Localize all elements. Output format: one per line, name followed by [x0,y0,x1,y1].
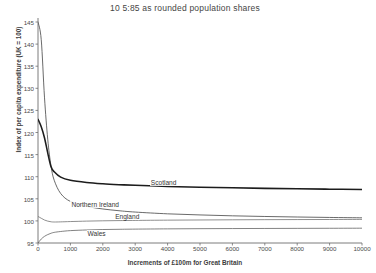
series-label-england: England [114,213,140,220]
series-line-scotland [38,119,362,189]
series-label-wales: Wales [87,230,107,237]
series-label-northern-ireland: Northern Ireland [70,201,120,208]
series-label-scotland: Scotland [150,179,178,186]
